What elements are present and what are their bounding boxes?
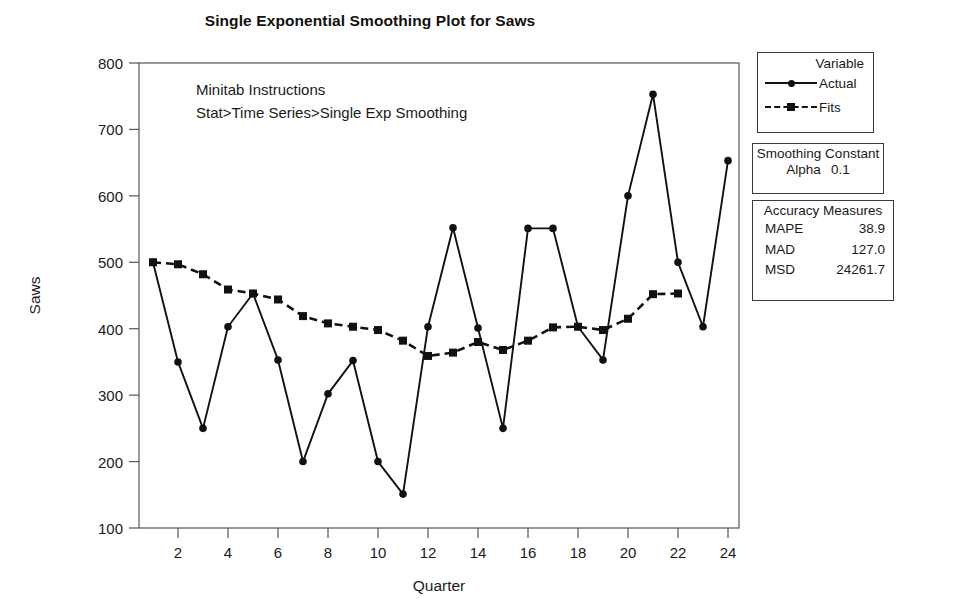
legend-panel: Variable Actual Fits <box>757 52 874 133</box>
data-point <box>474 338 482 346</box>
x-axis-tick-label: 18 <box>570 544 587 561</box>
x-axis-tick-label: 24 <box>720 544 737 561</box>
data-point <box>449 224 457 232</box>
data-point <box>224 286 232 294</box>
x-axis-tick-label: 16 <box>520 544 537 561</box>
x-axis-tick-label: 10 <box>370 544 387 561</box>
x-axis-tick-label: 6 <box>274 544 282 561</box>
plot-annotation-line-2: Stat>Time Series>Single Exp Smoothing <box>196 104 467 121</box>
data-point <box>424 323 432 331</box>
data-point <box>574 323 582 331</box>
data-point <box>624 315 632 323</box>
data-point <box>299 458 307 466</box>
x-axis-tick-label: 4 <box>224 544 232 561</box>
data-point <box>449 349 457 357</box>
x-axis-tick-label: 8 <box>324 544 332 561</box>
data-point <box>599 326 607 334</box>
data-point <box>199 425 207 433</box>
y-axis-tick-label: 100 <box>98 520 123 537</box>
data-point <box>224 323 232 331</box>
accuracy-row: MAD 127.0 <box>753 239 893 260</box>
accuracy-value-mape: 38.9 <box>831 219 885 239</box>
data-point <box>324 319 332 327</box>
plot-annotation-line-1: Minitab Instructions <box>196 81 325 98</box>
smoothing-constant-panel: Smoothing Constant Alpha 0.1 <box>752 143 884 194</box>
data-point <box>624 192 632 200</box>
accuracy-measures-title: Accuracy Measures <box>753 201 893 218</box>
data-point <box>474 324 482 332</box>
x-axis-tick-label: 2 <box>174 544 182 561</box>
legend-item-actual[interactable]: Actual <box>758 71 873 95</box>
data-point <box>174 358 182 366</box>
smoothing-alpha-label: Alpha <box>786 162 821 177</box>
data-point <box>674 258 682 266</box>
y-axis-tick-label: 600 <box>98 188 123 205</box>
data-point <box>374 458 382 466</box>
legend-key-solid-circle-icon <box>763 74 819 92</box>
data-point <box>174 260 182 268</box>
accuracy-key-mape: MAPE <box>765 219 831 239</box>
legend-item-fits[interactable]: Fits <box>758 95 873 119</box>
accuracy-row: MAPE 38.9 <box>753 218 893 239</box>
x-axis-title: Quarter <box>413 577 466 594</box>
x-axis-tick-label: 12 <box>420 544 437 561</box>
data-point <box>199 270 207 278</box>
data-point <box>349 323 357 331</box>
y-axis-tick-label: 200 <box>98 454 123 471</box>
smoothing-alpha-row: Alpha 0.1 <box>753 161 883 177</box>
legend-label-fits: Fits <box>819 100 841 115</box>
data-point <box>524 337 532 345</box>
smoothing-alpha-value: 0.1 <box>831 162 850 177</box>
accuracy-value-msd: 24261.7 <box>831 260 885 280</box>
accuracy-key-mad: MAD <box>765 240 831 260</box>
data-point <box>549 225 557 233</box>
data-point <box>499 346 507 354</box>
series-fits <box>149 258 682 360</box>
y-axis-tick-label: 500 <box>98 254 123 271</box>
series-actual <box>149 90 732 498</box>
series-line <box>153 94 728 494</box>
data-point <box>499 425 507 433</box>
y-axis-tick-label: 800 <box>98 55 123 72</box>
data-point <box>274 295 282 303</box>
accuracy-value-mad: 127.0 <box>831 240 885 260</box>
y-axis-tick-label: 400 <box>98 321 123 338</box>
accuracy-measures-panel: Accuracy Measures MAPE 38.9 MAD 127.0 MS… <box>752 200 894 301</box>
y-axis-tick-label: 700 <box>98 121 123 138</box>
series-line <box>153 262 678 356</box>
data-point <box>674 290 682 298</box>
data-point <box>649 290 657 298</box>
data-point <box>549 323 557 331</box>
accuracy-key-msd: MSD <box>765 260 831 280</box>
x-axis-tick-label: 14 <box>470 544 487 561</box>
data-point <box>149 258 157 266</box>
accuracy-row: MSD 24261.7 <box>753 259 893 280</box>
data-point <box>249 290 257 298</box>
data-point <box>274 356 282 364</box>
data-point <box>349 357 357 365</box>
data-point <box>299 312 307 320</box>
chart-page: Single Exponential Smoothing Plot for Sa… <box>0 0 956 615</box>
data-point <box>424 352 432 360</box>
data-point <box>324 390 332 398</box>
smoothing-constant-title: Smoothing Constant <box>753 144 883 161</box>
data-point <box>699 323 707 331</box>
x-axis-tick-label: 20 <box>620 544 637 561</box>
legend-key-dashed-square-icon <box>763 98 819 116</box>
data-point <box>524 225 532 233</box>
data-point <box>399 490 407 498</box>
data-point <box>649 90 657 98</box>
data-point <box>374 326 382 334</box>
data-point <box>724 157 732 165</box>
data-point <box>399 337 407 345</box>
legend-label-actual: Actual <box>819 76 857 91</box>
legend-title: Variable <box>758 53 873 71</box>
y-axis-tick-label: 300 <box>98 387 123 404</box>
x-axis-tick-label: 22 <box>670 544 687 561</box>
y-axis-title: Saws <box>26 276 43 314</box>
data-point <box>599 356 607 364</box>
